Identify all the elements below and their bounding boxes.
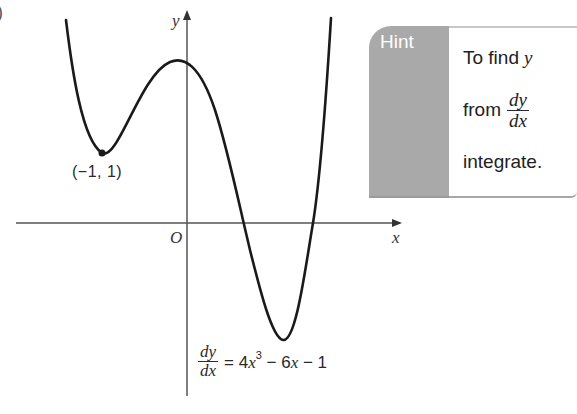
hint-text: from [463, 99, 501, 121]
coefficient: 4 [239, 352, 248, 371]
fraction-denominator: dx [507, 111, 529, 131]
y-axis-label: y [170, 11, 180, 30]
origin-label: O [170, 228, 182, 247]
hint-variable-y: y [524, 47, 532, 69]
derivative-equation: dy dx = 4x3 − 6x − 1 [198, 343, 327, 380]
x-axis-label: x [391, 228, 400, 247]
fraction-numerator: dy [507, 90, 529, 110]
hint-text: integrate. [463, 151, 542, 173]
fraction-numerator: dy [198, 343, 218, 361]
variable-x: x [248, 352, 256, 371]
equation-rhs: = 4x3 − 6x − 1 [224, 351, 327, 373]
equals-sign: = [224, 352, 234, 371]
fraction-denominator: dx [198, 362, 218, 380]
hint-tab: Hint [369, 26, 449, 198]
hint-box: Hint To find y from dy dx integrate. [369, 26, 577, 198]
exponent: 3 [256, 349, 262, 361]
minimum-point-label: (−1, 1) [72, 163, 122, 181]
hint-text: To find [463, 47, 519, 69]
minimum-point-marker [99, 150, 106, 157]
hint-line-1: To find y [463, 32, 577, 84]
hint-dy-dx-fraction: dy dx [507, 90, 529, 131]
hint-content: To find y from dy dx integrate. [449, 26, 577, 198]
term-3: − 1 [298, 352, 327, 371]
dy-dx-fraction: dy dx [198, 343, 218, 380]
term-2: − 6 [262, 352, 291, 371]
hint-line-2: from dy dx [463, 84, 577, 136]
hint-line-3: integrate. [463, 136, 577, 188]
